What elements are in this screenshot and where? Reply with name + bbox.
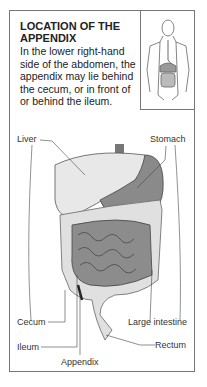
label-ileum: Ileum (17, 342, 39, 352)
label-stomach: Stomach (150, 134, 186, 144)
label-rectum: Rectum (155, 340, 186, 350)
body-silhouette-icon (147, 20, 189, 100)
small-intestine (72, 220, 152, 286)
label-cecum: Cecum (17, 317, 46, 327)
label-appendix: Appendix (61, 357, 99, 367)
label-large-intestine: Large intestine (128, 317, 187, 327)
label-liver: Liver (17, 134, 37, 144)
anatomy-illustration (0, 0, 207, 387)
